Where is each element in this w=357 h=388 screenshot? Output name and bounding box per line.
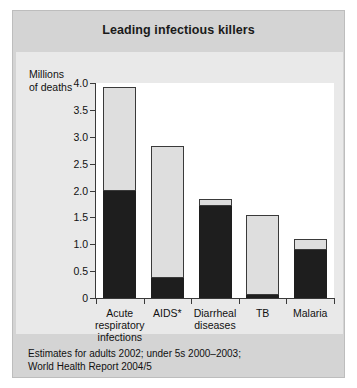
bar-segment-under5 — [103, 191, 136, 299]
chart-panel: Millions of deaths Age 5 and above Under… — [16, 52, 343, 334]
bar-segment-above5 — [294, 239, 327, 249]
y-tick-label: 3.0 — [73, 131, 88, 143]
bar-segment-above5 — [199, 199, 232, 206]
y-tick-mark — [90, 164, 96, 165]
y-tick-mark — [90, 271, 96, 272]
bar-segment-under5 — [151, 278, 184, 298]
x-tick-2 — [191, 298, 192, 304]
x-axis-label-line: diseases — [173, 319, 257, 331]
bar-segment-above5 — [246, 215, 279, 295]
bar-segment-under5 — [246, 295, 279, 298]
source-line-1: Estimates for adults 2002; under 5s 2000… — [28, 347, 343, 360]
y-tick-mark — [90, 244, 96, 245]
y-axis-title: Millions of deaths — [29, 68, 99, 94]
bar-4 — [246, 215, 279, 298]
y-tick-label: 0.5 — [73, 265, 88, 277]
y-tick-label: 1.5 — [73, 211, 88, 223]
y-tick-mark — [90, 191, 96, 192]
x-axis-label-line: respiratory — [78, 319, 162, 331]
y-tick-label: 4.0 — [73, 77, 88, 89]
x-tick-3 — [239, 298, 240, 304]
bar-2 — [151, 146, 184, 298]
y-tick-label: 2.5 — [73, 158, 88, 170]
bar-segment-above5 — [103, 87, 136, 191]
y-tick-label: 0 — [82, 292, 88, 304]
y-tick-mark — [90, 83, 96, 84]
y-tick-mark — [90, 110, 96, 111]
x-axis-label-5: Malaria — [268, 307, 352, 319]
bar-segment-above5 — [151, 146, 184, 278]
bar-5 — [294, 239, 327, 298]
x-axis-label-line: Malaria — [268, 307, 352, 319]
x-tick-5 — [334, 298, 335, 304]
y-tick-label: 1.0 — [73, 238, 88, 250]
chart-source-note: Estimates for adults 2002; under 5s 2000… — [16, 341, 343, 376]
y-tick-mark — [90, 217, 96, 218]
x-tick-1 — [144, 298, 145, 304]
x-tick-0 — [96, 298, 97, 304]
y-axis-title-line-1: Millions — [29, 68, 99, 81]
y-axis-title-line-2: of deaths — [29, 81, 99, 94]
page-title: Leading infectious killers — [102, 23, 255, 37]
x-tick-4 — [286, 298, 287, 304]
source-line-2: World Health Report 2004/5 — [28, 360, 343, 373]
y-tick-label: 3.5 — [73, 104, 88, 116]
plot-area: 00.51.01.52.02.53.03.54.0 Acuterespirato… — [95, 83, 334, 299]
bar-1 — [103, 87, 136, 298]
figure-container: Leading infectious killers Millions of d… — [12, 10, 345, 378]
y-tick-mark — [90, 137, 96, 138]
chart-title-band: Leading infectious killers — [13, 11, 344, 49]
y-tick-label: 2.0 — [73, 185, 88, 197]
bar-segment-under5 — [199, 206, 232, 298]
bar-3 — [199, 199, 232, 298]
bar-segment-under5 — [294, 250, 327, 298]
